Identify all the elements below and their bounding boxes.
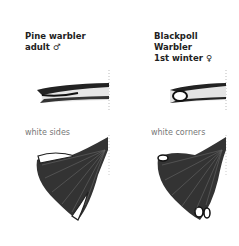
pine-warbler-tail-spread	[37, 137, 108, 220]
pine-warbler-tail-underside	[37, 83, 109, 103]
blackpoll-tail-underside	[170, 83, 226, 103]
tail-illustrations	[0, 0, 239, 246]
blackpoll-tail-spread	[158, 137, 226, 220]
